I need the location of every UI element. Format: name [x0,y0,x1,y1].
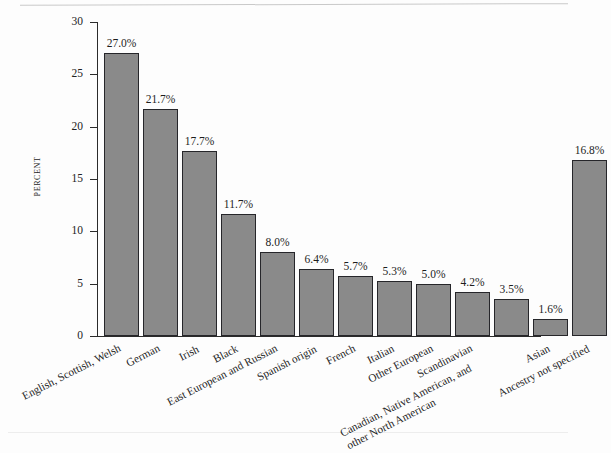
bar-value-label: 5.7% [335,261,377,273]
bar [572,160,607,336]
bar-value-label: 4.2% [452,277,494,289]
bar [533,319,568,336]
y-tick-label: 15 [41,173,83,185]
bar [221,214,256,336]
bar [182,151,217,336]
category-label: Canadian, Native American, andother Nort… [338,342,520,453]
y-axis-line [97,22,98,336]
y-tick-mark [90,74,97,75]
x-axis-line [97,336,541,337]
category-label: German [124,342,162,371]
bar-value-label: 1.6% [530,304,572,316]
bar [299,269,334,336]
bar [104,53,139,336]
category-label: English, Scottish, Welsh [20,342,123,404]
y-tick-mark [90,127,97,128]
bar-value-label: 5.3% [374,266,416,278]
bar [455,292,490,336]
y-tick-label: 5 [41,278,83,290]
bar-value-label: 6.4% [296,254,338,266]
bar-value-label: 8.0% [257,237,299,249]
bar [338,276,373,336]
bar [143,109,178,336]
bar-value-label: 5.0% [413,269,455,281]
category-label: French [324,342,358,368]
y-tick-mark [90,336,97,337]
bar [260,252,295,336]
bar-value-label: 21.7% [140,94,182,106]
bar-value-label: 16.8% [569,145,611,157]
y-tick-mark [90,284,97,285]
bar [416,284,451,336]
y-tick-label: 25 [41,68,83,80]
y-tick-label: 0 [41,330,83,342]
bar [377,281,412,336]
y-tick-label: 20 [41,121,83,133]
bar-value-label: 3.5% [491,284,533,296]
y-tick-mark [90,22,97,23]
bar-value-label: 17.7% [179,136,221,148]
bar [494,299,529,336]
bar-value-label: 11.7% [218,199,260,211]
y-tick-label: 10 [41,225,83,237]
bar-value-label: 27.0% [101,38,143,50]
y-tick-mark [90,231,97,232]
category-label: Irish [177,342,201,363]
y-tick-label: 30 [41,16,83,28]
y-tick-mark [90,179,97,180]
